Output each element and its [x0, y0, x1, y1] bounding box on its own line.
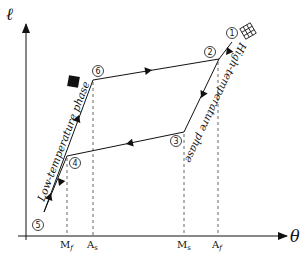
segment-3-4	[67, 132, 184, 156]
as-label: As	[86, 239, 98, 252]
step-1: 1	[227, 28, 238, 39]
segment-6-2	[93, 59, 219, 80]
mf-label: Mf	[60, 239, 74, 252]
ms-label: Ms	[177, 239, 191, 252]
svg-text:6: 6	[95, 67, 100, 76]
temperature-labels: Mf As Ms Af	[60, 239, 223, 252]
hysteresis-diagram: ℓ θ Mf As Ms Af	[0, 0, 307, 255]
svg-text:4: 4	[72, 159, 77, 168]
step-6: 6	[93, 66, 104, 77]
svg-text:5: 5	[35, 221, 40, 230]
af-label: Af	[211, 239, 223, 252]
axes: ℓ θ	[6, 4, 300, 246]
step-5: 5	[33, 220, 44, 231]
solid-square-icon	[67, 75, 80, 88]
step-3: 3	[171, 136, 182, 147]
grid-lattice-icon	[240, 23, 256, 39]
high-temperature-phase-label: High-temperature phase	[183, 40, 250, 165]
step-2: 2	[205, 47, 216, 58]
svg-text:1: 1	[229, 29, 234, 38]
arrow-3-4-icon	[125, 139, 134, 148]
segment-5-6	[44, 80, 93, 212]
y-axis-label: ℓ	[6, 4, 13, 24]
x-axis-label: θ	[290, 227, 300, 246]
arrow-2-3-icon	[197, 90, 207, 100]
svg-text:2: 2	[207, 48, 212, 57]
low-temperature-phase-label: Low-temperature phase	[34, 80, 91, 204]
svg-text:3: 3	[173, 137, 178, 146]
step-4: 4	[70, 158, 81, 169]
arrow-4-5-icon	[55, 178, 65, 187]
